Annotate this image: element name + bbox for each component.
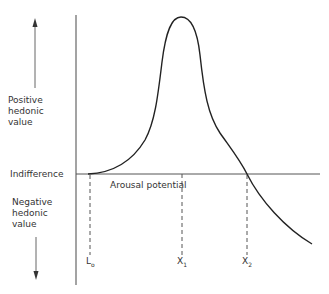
marker-l0: Lo: [86, 256, 95, 267]
hedonic-curve: [88, 17, 312, 244]
marker-x2: X2: [242, 256, 252, 267]
marker-x1: X1: [177, 256, 187, 267]
indifference-label: Indifference: [10, 169, 64, 180]
up-arrow-icon: [33, 18, 38, 88]
down-arrow-icon: [34, 237, 39, 280]
positive-hedonic-label: Positive hedonic value: [8, 95, 44, 128]
wundt-curve-diagram: [0, 0, 329, 294]
arousal-potential-label: Arousal potential: [110, 180, 186, 191]
negative-hedonic-label: Negative hedonic value: [12, 197, 52, 230]
